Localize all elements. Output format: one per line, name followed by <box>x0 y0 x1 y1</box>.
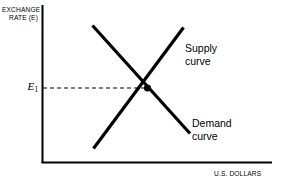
y-axis-label: EXCHANGE RATE (E) <box>2 6 38 23</box>
demand-curve-label: Demand curve <box>192 117 232 142</box>
demand-curve-line <box>93 26 191 134</box>
equilibrium-tick-letter: E <box>28 80 35 92</box>
plot-canvas <box>0 0 284 182</box>
x-axis-label: U.S. DOLLARS <box>214 170 261 177</box>
supply-curve-label: Supply curve <box>185 42 217 67</box>
equilibrium-point-marker <box>144 84 151 91</box>
equilibrium-tick-subscript: 1 <box>35 85 39 94</box>
equilibrium-tick-label: E1 <box>16 80 38 92</box>
exchange-rate-diagram: EXCHANGE RATE (E) E1 Supply curve Demand… <box>0 0 284 182</box>
